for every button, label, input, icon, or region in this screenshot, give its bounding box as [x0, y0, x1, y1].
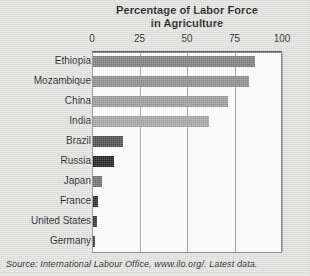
- chart-title-line-1: Percentage of Labor Force: [116, 4, 258, 16]
- bar-row: Russia: [0, 156, 310, 167]
- bar-row: United States: [0, 216, 310, 227]
- category-label-russia: Russia: [0, 155, 91, 167]
- category-label-india: India: [0, 115, 91, 127]
- bar-mozambique: [93, 76, 249, 87]
- x-tick-75: 75: [229, 33, 240, 44]
- bar-ethiopia: [93, 56, 255, 67]
- bar-china: [93, 96, 228, 107]
- bar-rows: EthiopiaMozambiqueChinaIndiaBrazilRussia…: [0, 52, 310, 253]
- bar-india: [93, 116, 209, 127]
- bar-brazil: [93, 136, 123, 147]
- x-tick-50: 50: [181, 33, 192, 44]
- x-tick-100: 100: [274, 33, 291, 44]
- chart-title-line-2: in Agriculture: [92, 17, 282, 30]
- x-axis-tick-labels: 0255075100: [92, 33, 282, 47]
- chart-figure: Percentage of Labor Force in Agriculture…: [0, 0, 310, 276]
- bar-row: India: [0, 116, 310, 127]
- bar-row: Japan: [0, 176, 310, 187]
- bar-row: Mozambique: [0, 76, 310, 87]
- bar-row: Brazil: [0, 136, 310, 147]
- bar-japan: [93, 176, 102, 187]
- bar-row: Germany: [0, 236, 310, 247]
- bar-row: France: [0, 196, 310, 207]
- category-label-germany: Germany: [0, 235, 91, 247]
- bar-united-states: [93, 216, 97, 227]
- category-label-france: France: [0, 195, 91, 207]
- category-label-china: China: [0, 95, 91, 107]
- bar-france: [93, 196, 98, 207]
- category-label-mozambique: Mozambique: [0, 75, 91, 87]
- source-note: Source: International Labour Office, www…: [6, 259, 257, 269]
- bar-row: Ethiopia: [0, 56, 310, 67]
- category-label-ethiopia: Ethiopia: [0, 55, 91, 67]
- bar-row: China: [0, 96, 310, 107]
- bar-germany: [93, 236, 95, 247]
- chart-title: Percentage of Labor Force in Agriculture: [92, 4, 282, 30]
- category-label-brazil: Brazil: [0, 135, 91, 147]
- category-label-japan: Japan: [0, 175, 91, 187]
- category-label-united-states: United States: [0, 215, 91, 227]
- bar-russia: [93, 156, 114, 167]
- x-tick-25: 25: [134, 33, 145, 44]
- x-tick-0: 0: [89, 33, 95, 44]
